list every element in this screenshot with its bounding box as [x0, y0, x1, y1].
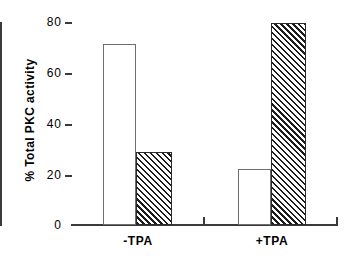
y-tick-label-0: 0	[24, 219, 62, 231]
bar-chart: % Total PKC activity 80 60 40 20 0 -TPA …	[0, 0, 355, 260]
y-tick-label-20: 20	[24, 169, 62, 181]
y-tick-label-60: 60	[24, 67, 62, 79]
y-tick-20	[65, 175, 72, 177]
y-tick-40	[65, 124, 72, 126]
x-tick-right-end	[336, 217, 338, 225]
x-tick-center	[203, 217, 205, 225]
y-tick-60	[65, 73, 72, 75]
bar-hatched-tpa-plus	[271, 23, 306, 225]
y-tick-80	[65, 22, 72, 24]
y-tick-label-80: 80	[24, 16, 62, 28]
y-tick-label-40: 40	[24, 118, 62, 130]
bar-hatched-tpa-minus	[136, 152, 172, 225]
x-label-group-1: -TPA	[98, 234, 178, 248]
y-axis-line	[0, 22, 2, 226]
bar-open-tpa-minus	[103, 44, 136, 225]
bar-open-tpa-plus	[238, 169, 271, 225]
x-label-group-2: +TPA	[232, 234, 312, 248]
